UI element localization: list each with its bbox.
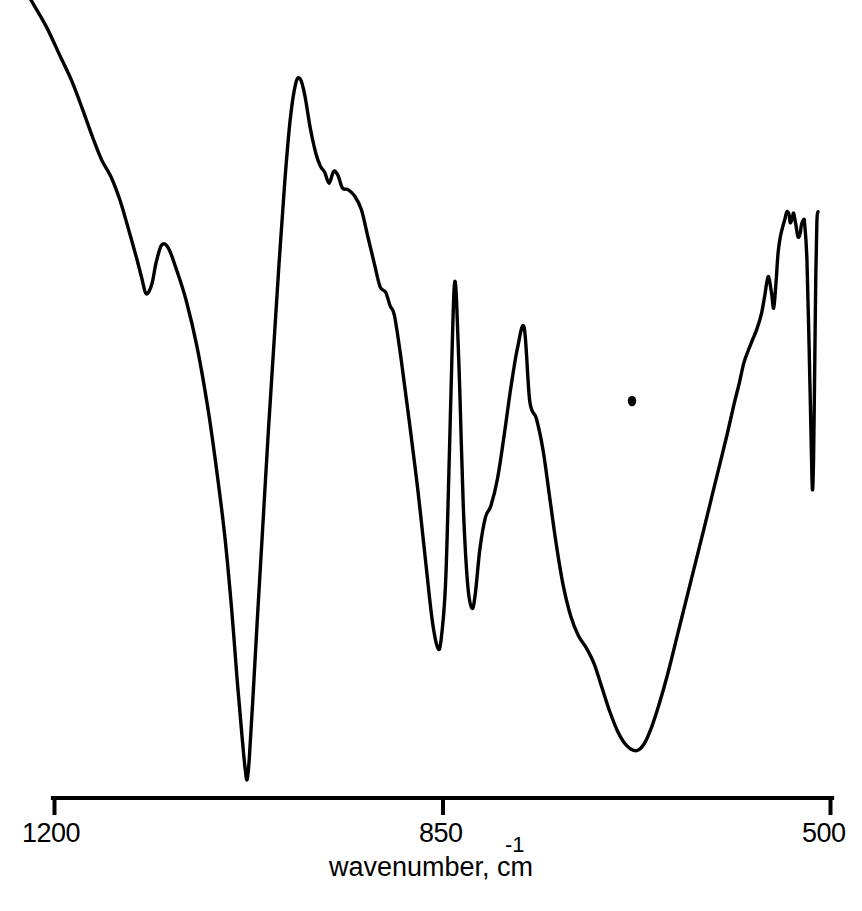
x-axis-tick-label-500: 500 — [802, 818, 846, 849]
x-axis-tick-label-850: 850 — [419, 818, 463, 849]
spectrum-figure: 1200 850 500 wavenumber, cm -1 — [0, 0, 862, 911]
spectrum-plot — [0, 0, 862, 911]
x-axis — [53, 798, 832, 815]
spectrum-trace — [31, 0, 818, 780]
x-axis-title-container: wavenumber, cm — [0, 852, 862, 883]
x-axis-title-exponent: -1 — [505, 832, 525, 858]
x-axis-tick-label-1200: 1200 — [22, 818, 80, 849]
x-axis-title: wavenumber, cm — [329, 852, 533, 882]
ink-artifact-dot — [628, 396, 636, 406]
